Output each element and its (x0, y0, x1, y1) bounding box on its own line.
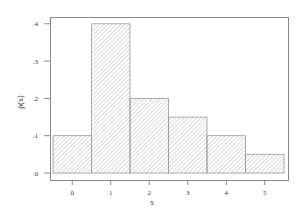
x-tick-label: 1 (109, 189, 113, 197)
x-tick-label: 0 (71, 189, 75, 197)
y-axis: 0.1.2.3.4 (33, 20, 50, 177)
x-axis: 012345 (71, 180, 268, 197)
x-tick-label: 5 (263, 189, 267, 197)
x-axis-label: x (150, 198, 154, 207)
histogram-chart: 0.1.2.3.4 012345 x p(x) (0, 0, 304, 210)
bar-1 (92, 24, 131, 173)
y-tick-label: .1 (33, 132, 39, 140)
y-tick-label: .3 (33, 58, 39, 66)
x-tick-label: 4 (225, 189, 229, 197)
bars-group (53, 24, 284, 173)
x-tick-label: 2 (148, 189, 152, 197)
bar-3 (169, 117, 208, 173)
bar-4 (207, 136, 246, 173)
bar-0 (53, 136, 92, 173)
y-tick-label: .2 (33, 95, 39, 103)
y-tick-label: 0 (35, 170, 39, 178)
y-axis-label: p(x) (16, 95, 25, 109)
x-tick-label: 3 (186, 189, 190, 197)
bar-2 (130, 98, 169, 173)
y-tick-label: .4 (33, 20, 39, 28)
bar-5 (246, 154, 285, 173)
